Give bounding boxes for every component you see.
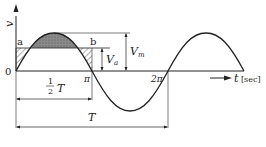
t-unit-label: [sec] [241, 75, 261, 84]
half-fraction-numerator: 1 [48, 77, 53, 86]
point-a-label: a [17, 36, 23, 47]
y-axis-arrow-icon [14, 4, 19, 12]
origin-label: 0 [5, 66, 11, 77]
vm-label: Vm [130, 45, 145, 59]
two-pi-label: 2π [150, 74, 164, 84]
point-b-label: b [90, 36, 96, 47]
va-label: Va [106, 53, 118, 67]
t-axis-label: t [234, 72, 239, 85]
period-label: T [88, 111, 97, 124]
y-axis-label: v [3, 20, 16, 27]
half-period-label: T [57, 82, 66, 95]
half-fraction-denominator: 2 [48, 87, 53, 96]
pi-label: π [83, 74, 91, 84]
dotted-region-peak [31, 33, 77, 48]
sine-wave-diagram: v a b 0 Va Vm π 2π t [sec] 1 2 T T [0, 0, 266, 147]
